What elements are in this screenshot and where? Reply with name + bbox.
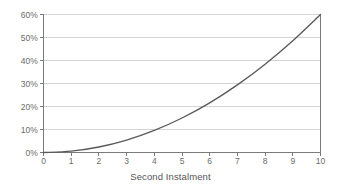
y-axis-tick-label: 30%: [21, 79, 38, 89]
x-axis-tick-label: 4: [152, 156, 157, 166]
x-axis-title: Second Instalment: [0, 171, 341, 182]
y-axis-tick-label: 10%: [21, 125, 38, 135]
x-axis-tick-label: 0: [41, 156, 46, 166]
x-axis-tick-label: 8: [263, 156, 268, 166]
axis-tick-marks: [40, 15, 321, 157]
y-axis-tick-label: 40%: [21, 56, 38, 66]
y-axis-tick-label: 20%: [21, 102, 38, 112]
gridlines: [44, 15, 321, 130]
y-axis-tick-label: 50%: [21, 33, 38, 43]
x-axis-tick-label: 3: [124, 156, 129, 166]
x-axis-tick-label: 10: [316, 156, 325, 166]
y-axis-tick-label: 60%: [21, 10, 38, 20]
x-axis-tick-label: 2: [97, 156, 102, 166]
x-axis-tick-label: 6: [207, 156, 212, 166]
x-axis-tick-label: 1: [69, 156, 74, 166]
x-axis-tick-label: 7: [235, 156, 240, 166]
x-axis-tick-label: 9: [290, 156, 295, 166]
x-axis-tick-label: 5: [180, 156, 185, 166]
x-axis-tick-labels: 012345678910: [0, 156, 341, 170]
chart-container: 0%10%20%30%40%50%60% 012345678910 Second…: [0, 0, 341, 195]
